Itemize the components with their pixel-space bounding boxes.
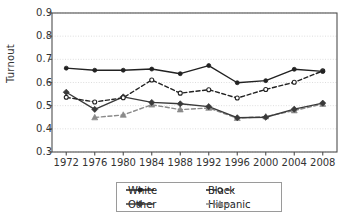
data-point-white-1980 xyxy=(121,68,125,72)
data-point-white-1972 xyxy=(64,66,68,70)
x-axis-tick-label: 1996 xyxy=(225,157,250,168)
data-point-white-2000 xyxy=(264,79,268,83)
data-point-white-1992 xyxy=(207,64,211,68)
data-point-black-1980 xyxy=(121,96,125,100)
legend-swatch-black-icon xyxy=(205,184,235,196)
series-line-white xyxy=(66,66,323,83)
data-point-white-2004 xyxy=(292,67,296,71)
series-line-black xyxy=(66,71,323,102)
legend-swatch-hispanic-icon xyxy=(205,198,235,210)
data-point-black-1972 xyxy=(64,95,68,99)
legend-entry-black[interactable]: Black xyxy=(205,184,235,198)
data-point-other-1972 xyxy=(63,89,69,95)
data-point-black-1976 xyxy=(93,100,97,104)
legend: White Black Other Hispanic xyxy=(116,182,282,212)
data-point-black-1992 xyxy=(207,88,211,92)
x-axis-tick-label: 2000 xyxy=(253,157,278,168)
x-axis-tick-label: 1984 xyxy=(139,157,164,168)
legend-entry-white[interactable]: White xyxy=(125,184,157,198)
x-axis-tick-label: 1980 xyxy=(111,157,136,168)
x-axis-tick-label: 2008 xyxy=(310,157,335,168)
data-point-white-1984 xyxy=(150,67,154,71)
data-point-white-1996 xyxy=(235,81,239,85)
x-axis-tick-label: 1972 xyxy=(54,157,79,168)
data-point-white-1976 xyxy=(93,68,97,72)
x-axis-tick-label: 2004 xyxy=(282,157,307,168)
legend-entry-other[interactable]: Other xyxy=(125,198,156,212)
legend-marker xyxy=(137,201,143,207)
data-point-black-1984 xyxy=(150,78,154,82)
legend-swatch-white-icon xyxy=(125,184,155,196)
data-point-other-2000 xyxy=(263,114,269,120)
x-axis-tick-label: 1976 xyxy=(82,157,107,168)
data-point-black-1996 xyxy=(235,96,239,100)
data-point-black-2000 xyxy=(264,87,268,91)
legend-row-top: White Black xyxy=(117,184,283,198)
data-point-white-1988 xyxy=(178,72,182,76)
turnout-line-chart: Turnout 0.90.80.70.60.50.40.3 1972197619… xyxy=(0,0,353,216)
legend-swatch-other-icon xyxy=(125,198,155,210)
legend-marker xyxy=(218,188,222,192)
data-point-other-1976 xyxy=(92,106,98,112)
data-point-black-1988 xyxy=(178,91,182,95)
x-axis-tick-labels: 1972197619801984198819921996200020042008 xyxy=(0,157,353,171)
series-line-other xyxy=(66,92,323,117)
x-axis-tick-label: 1992 xyxy=(196,157,221,168)
legend-row-bottom: Other Hispanic xyxy=(117,198,283,212)
legend-marker xyxy=(138,188,142,192)
data-point-black-2004 xyxy=(292,80,296,84)
x-axis-tick-label: 1988 xyxy=(168,157,193,168)
data-point-white-2008 xyxy=(321,69,325,73)
legend-entry-hispanic[interactable]: Hispanic xyxy=(205,198,251,212)
